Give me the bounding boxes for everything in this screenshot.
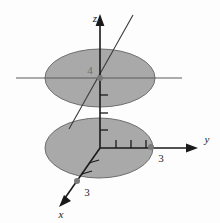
x-axis-label: x xyxy=(58,208,64,220)
x-intercept-marker xyxy=(74,178,80,184)
figure-canvas: z y x 4 3 3 xyxy=(0,0,220,223)
upper-disc-center-point xyxy=(97,75,103,81)
figure-background xyxy=(0,0,220,223)
x-value-label-3: 3 xyxy=(84,186,90,198)
z-axis-label: z xyxy=(92,12,98,24)
z-value-label-4: 4 xyxy=(87,64,93,76)
y-value-label-3: 3 xyxy=(158,152,164,164)
coordinate-system-diagram: z y x 4 3 3 xyxy=(0,0,220,223)
y-axis-label: y xyxy=(204,133,210,145)
y-intercept-marker xyxy=(148,144,154,150)
